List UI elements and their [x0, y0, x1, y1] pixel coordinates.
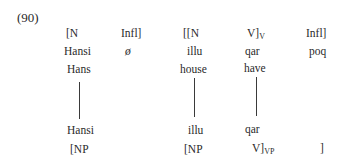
gloss-hans: Hans	[67, 63, 91, 76]
label-v: V]	[247, 27, 259, 39]
gloss-have: have	[244, 62, 266, 75]
label-v-bracket: V]V	[247, 27, 265, 43]
association-line-hansi	[79, 82, 80, 119]
label-vp-v: V]	[252, 142, 264, 154]
gloss-house: house	[180, 63, 207, 76]
label-infl-2: Infl]	[306, 27, 326, 40]
morpheme-poq: poq	[309, 45, 326, 58]
label-vp-subscript: VP	[264, 147, 274, 156]
association-line-illu	[194, 78, 195, 117]
label-vp-bracket: V]VP	[252, 142, 274, 158]
morpheme-hansi: Hansi	[64, 45, 91, 58]
label-close-bracket: ]	[320, 142, 324, 155]
morpheme-illu: illu	[187, 45, 202, 58]
label-np-2: [NP	[184, 143, 203, 156]
association-line-qar	[256, 77, 257, 116]
example-number: (90)	[17, 11, 39, 24]
label-infl: Infl]	[121, 27, 141, 40]
label-v-subscript: V	[259, 32, 265, 41]
label-np-1: [NP	[70, 143, 89, 156]
label-nn: [[N	[183, 27, 199, 40]
morpheme-null: ø	[125, 45, 131, 58]
morpheme-qar: qar	[245, 45, 260, 58]
syntax-hansi: Hansi	[67, 124, 94, 137]
syntax-illu: illu	[188, 124, 203, 137]
syntax-qar: qar	[245, 123, 260, 136]
label-n: [N	[66, 27, 78, 40]
